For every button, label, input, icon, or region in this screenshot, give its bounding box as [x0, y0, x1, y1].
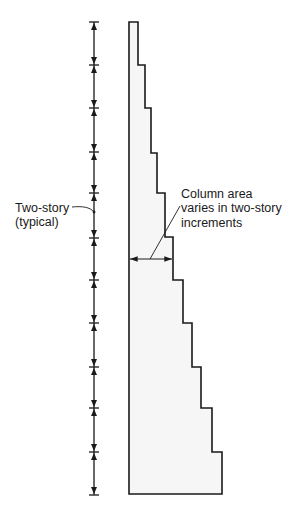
- right-label-line3: increments: [181, 216, 242, 230]
- arrowhead-down-icon: [91, 185, 97, 192]
- arrowhead-up-icon: [91, 23, 97, 30]
- left-label-leader-line: [72, 207, 94, 212]
- arrowhead-up-icon: [91, 153, 97, 160]
- arrowhead-down-icon: [91, 444, 97, 451]
- arrowhead-down-icon: [91, 359, 97, 366]
- column-diagram: Two-story (typical) Column area varies i…: [0, 0, 296, 512]
- arrowhead-up-icon: [91, 324, 97, 331]
- arrowhead-up-icon: [91, 409, 97, 416]
- arrowhead-up-icon: [91, 194, 97, 201]
- story-dimension-line: [89, 22, 99, 495]
- arrowhead-up-icon: [91, 109, 97, 116]
- arrowhead-down-icon: [91, 57, 97, 64]
- leader-dot: [93, 211, 96, 214]
- arrowhead-down-icon: [91, 100, 97, 107]
- arrowhead-up-icon: [91, 453, 97, 460]
- column-profile: [129, 22, 222, 494]
- arrowhead-down-icon: [91, 315, 97, 322]
- arrowhead-up-icon: [91, 66, 97, 73]
- arrowhead-up-icon: [91, 368, 97, 375]
- arrowhead-down-icon: [91, 230, 97, 237]
- left-label-line2: (typical): [15, 215, 59, 229]
- right-label-line1: Column area: [181, 187, 253, 201]
- arrowhead-up-icon: [91, 239, 97, 246]
- arrowhead-down-icon: [91, 400, 97, 407]
- arrowhead-down-icon: [91, 487, 97, 494]
- right-label-line2: varies in two-story: [181, 201, 282, 215]
- arrowhead-down-icon: [91, 144, 97, 151]
- arrowhead-down-icon: [91, 272, 97, 279]
- left-label-line1: Two-story: [15, 201, 70, 215]
- arrowhead-up-icon: [91, 281, 97, 288]
